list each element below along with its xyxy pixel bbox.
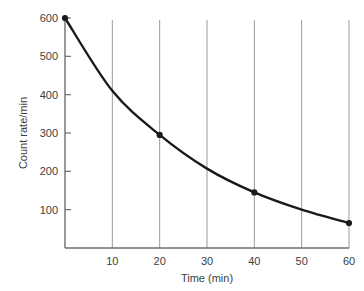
data-point: [62, 15, 68, 21]
y-tick-label: 600: [40, 12, 58, 24]
x-axis-title: Time (min): [181, 272, 233, 284]
y-tick-label: 100: [40, 204, 58, 216]
x-tick-label: 10: [106, 255, 118, 267]
decay-chart: 600 500 400 300 200 100 10 20 30 40 50 6…: [0, 0, 364, 291]
x-tick-label: 60: [343, 255, 355, 267]
y-tick-label: 200: [40, 165, 58, 177]
y-tick-label: 500: [40, 50, 58, 62]
y-tick-label: 400: [40, 89, 58, 101]
data-point: [346, 220, 352, 226]
x-tick-label: 20: [154, 255, 166, 267]
x-tick-label: 50: [296, 255, 308, 267]
data-point: [157, 132, 163, 138]
chart-canvas: 600 500 400 300 200 100 10 20 30 40 50 6…: [0, 0, 364, 291]
x-tick-label: 30: [201, 255, 213, 267]
x-tick-label: 40: [248, 255, 260, 267]
y-tick-label: 300: [40, 127, 58, 139]
data-point: [251, 189, 257, 195]
y-axis-title: Count rate/min: [17, 97, 29, 169]
